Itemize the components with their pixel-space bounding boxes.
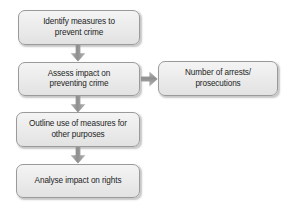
flowchart-node-number-of-arrests[interactable]: Number of arrests/ prosecutions — [158, 61, 278, 96]
flowchart-node-label: Analyse impact on rights — [21, 176, 135, 187]
flowchart-node-label: Outline use of measures for other purpos… — [21, 119, 135, 140]
flowchart-canvas: Identify measures to prevent crime Asses… — [0, 0, 287, 210]
flowchart-node-identify-measures[interactable]: Identify measures to prevent crime — [18, 10, 140, 45]
flowchart-node-label: Number of arrests/ prosecutions — [163, 68, 273, 89]
flowchart-node-assess-impact[interactable]: Assess impact on preventing crime — [18, 62, 140, 96]
flowchart-node-outline-use-of-measures[interactable]: Outline use of measures for other purpos… — [16, 112, 140, 147]
flowchart-node-label: Assess impact on preventing crime — [23, 69, 135, 90]
flowchart-node-analyse-impact-on-rights[interactable]: Analyse impact on rights — [16, 164, 140, 198]
arrow-right-icon — [141, 71, 158, 87]
flowchart-node-label: Identify measures to prevent crime — [23, 17, 135, 38]
arrow-down-icon — [70, 96, 86, 113]
arrow-down-icon — [70, 147, 86, 164]
arrow-down-icon — [70, 45, 86, 62]
